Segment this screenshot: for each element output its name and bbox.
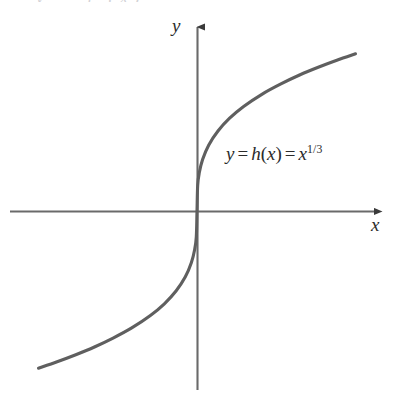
plot-canvas (0, 0, 402, 403)
x-axis-label: x (371, 215, 379, 234)
curve-equation-label: y=h(x)=x1/3 (226, 144, 323, 163)
equation-close-paren: ) (275, 143, 281, 164)
y-axis-label: y (172, 16, 180, 35)
equation-function-name: h (251, 143, 261, 164)
cube-root-function-figure: y = f (x) y x y=h(x)=x1/3 (0, 0, 402, 403)
equation-base: x (298, 143, 306, 164)
equation-equals-second: = (285, 143, 296, 164)
equation-equals-first: = (237, 143, 248, 164)
equation-exponent: 1/3 (307, 143, 323, 156)
equation-lhs: y (226, 143, 234, 164)
